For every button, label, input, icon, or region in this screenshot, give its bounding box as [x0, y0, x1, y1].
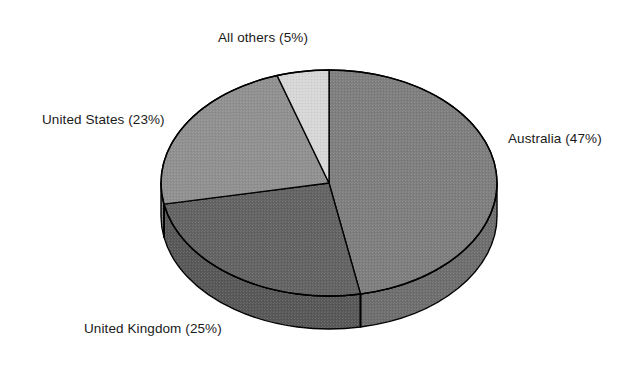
pie-slice-label-united-kingdom: United Kingdom (25%) — [84, 321, 222, 337]
pie-chart-figure: All others (5%) United States (23%) Aust… — [0, 0, 631, 368]
pie-slice-label-united-states: United States (23%) — [42, 112, 165, 128]
pie-slice-label-all-others: All others (5%) — [218, 30, 308, 46]
pie-body — [161, 70, 497, 329]
pie-slice-label-australia: Australia (47%) — [508, 131, 602, 147]
pie-chart-canvas — [0, 0, 631, 368]
